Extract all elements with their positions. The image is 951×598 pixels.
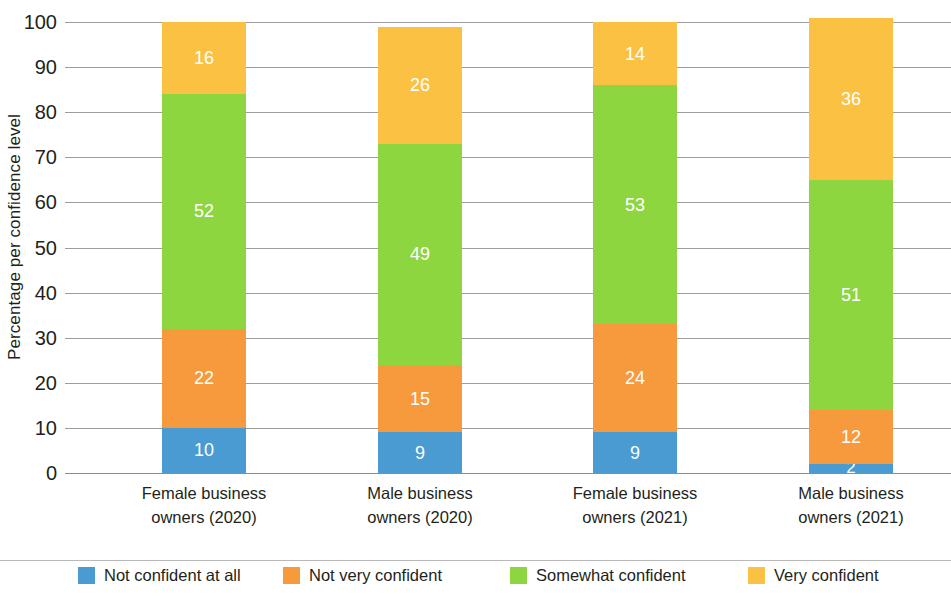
bar-segment[interactable]: 9: [593, 432, 677, 473]
bar-segment-value: 9: [630, 444, 640, 462]
bar-segment[interactable]: 26: [378, 27, 462, 144]
bar-segment-value: 51: [841, 286, 861, 304]
plot-area: 1009080706050403020100 10225216915492692…: [0, 0, 951, 474]
x-axis-category-label-line: owners (2020): [320, 506, 520, 530]
legend-divider: [0, 560, 951, 561]
legend-color-swatch: [78, 567, 95, 584]
x-axis-category-label: Female businessowners (2021): [535, 482, 735, 530]
x-axis-category-label-line: owners (2021): [751, 506, 951, 530]
x-axis-category-label-line: owners (2021): [535, 506, 735, 530]
x-axis-category-label-line: Male business: [751, 482, 951, 506]
x-axis-category-label: Male businessowners (2021): [751, 482, 951, 530]
bar-segment[interactable]: 22: [162, 329, 246, 428]
bar-column[interactable]: 9245314: [593, 22, 677, 473]
legend-item-label: Not confident at all: [104, 566, 241, 585]
legend-color-swatch: [283, 567, 300, 584]
bar-segment-value: 36: [841, 90, 861, 108]
legend-item[interactable]: Not very confident: [283, 566, 442, 585]
x-axis-category-label: Male businessowners (2020): [320, 482, 520, 530]
bar-segment[interactable]: 49: [378, 144, 462, 365]
bar-column[interactable]: 10225216: [162, 22, 246, 473]
bars-layer: 10225216915492692453142125136: [0, 0, 951, 474]
legend: Not confident at allNot very confidentSo…: [0, 560, 951, 598]
bar-segment-value: 12: [841, 428, 861, 446]
legend-item-label: Somewhat confident: [536, 566, 686, 585]
bar-segment-value: 52: [194, 202, 214, 220]
bar-segment-value: 22: [194, 369, 214, 387]
x-axis-category-label-line: Male business: [320, 482, 520, 506]
x-axis-category-labels: Female businessowners (2020)Male busines…: [0, 482, 951, 544]
x-axis-category-label-line: Female business: [104, 482, 304, 506]
bar-segment[interactable]: 14: [593, 22, 677, 85]
bar-segment-value: 53: [625, 196, 645, 214]
bar-segment[interactable]: 15: [378, 365, 462, 433]
bar-segment[interactable]: 16: [162, 22, 246, 94]
bar-segment[interactable]: 52: [162, 94, 246, 329]
x-axis-category-label-line: owners (2020): [104, 506, 304, 530]
bar-segment-value: 26: [410, 76, 430, 94]
x-axis-category-label-line: Female business: [535, 482, 735, 506]
bar-segment[interactable]: 2: [809, 464, 893, 473]
legend-item-label: Very confident: [774, 566, 879, 585]
x-axis-category-label: Female businessowners (2020): [104, 482, 304, 530]
bar-column[interactable]: 9154926: [378, 27, 462, 473]
bar-segment-value: 24: [625, 369, 645, 387]
legend-item[interactable]: Very confident: [748, 566, 879, 585]
legend-item[interactable]: Somewhat confident: [510, 566, 686, 585]
bar-segment-value: 15: [410, 390, 430, 408]
bar-segment-value: 10: [194, 441, 214, 459]
bar-segment[interactable]: 36: [809, 18, 893, 180]
bar-column[interactable]: 2125136: [809, 18, 893, 474]
bar-segment-value: 16: [194, 49, 214, 67]
legend-color-swatch: [748, 567, 765, 584]
bar-segment-value: 14: [625, 45, 645, 63]
bar-segment[interactable]: 12: [809, 410, 893, 464]
bar-segment[interactable]: 53: [593, 85, 677, 324]
legend-item[interactable]: Not confident at all: [78, 566, 241, 585]
bar-segment[interactable]: 10: [162, 428, 246, 473]
stacked-bar-chart: Percentage per confidence level 10090807…: [0, 0, 951, 598]
bar-segment-value: 9: [415, 444, 425, 462]
legend-color-swatch: [510, 567, 527, 584]
bar-segment[interactable]: 51: [809, 180, 893, 410]
legend-item-label: Not very confident: [309, 566, 442, 585]
bar-segment-value: 49: [410, 245, 430, 263]
bar-segment[interactable]: 9: [378, 432, 462, 473]
bar-segment[interactable]: 24: [593, 324, 677, 432]
